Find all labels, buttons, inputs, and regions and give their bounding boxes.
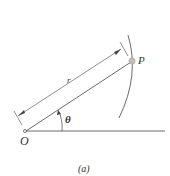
angle-arrowhead-icon (57, 110, 61, 115)
arrowhead-start-icon (18, 110, 25, 116)
radius-line (26, 62, 131, 131)
particle-point (129, 58, 135, 64)
point-label: P (138, 54, 145, 66)
extension-tick-end (120, 42, 128, 56)
origin-point (24, 130, 27, 133)
arrowhead-end-icon (114, 49, 121, 55)
path-arc (119, 35, 132, 118)
polar-coordinates-figure: O P r θ (a) (0, 0, 170, 176)
extension-tick-start (14, 111, 22, 125)
radius-label: r (67, 75, 71, 85)
figure-caption: (a) (78, 163, 90, 174)
origin-label: O (20, 134, 29, 149)
angle-label: θ (65, 113, 71, 125)
diagram-canvas (0, 0, 170, 176)
